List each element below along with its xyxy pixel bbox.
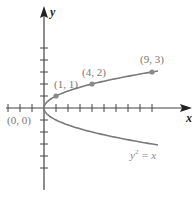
y-axis-label: y [48,5,56,19]
parabola-chart: xy(0, 0)(1, 1)(4, 2)(9, 3)y2 = x [0,0,196,200]
curve-lower-branch [44,108,158,145]
point-label: (9, 3) [140,53,164,66]
axes [6,6,192,190]
point-label: (1, 1) [54,78,78,91]
equation-rest: = x [138,149,156,161]
data-point [89,81,94,86]
data-point [53,93,58,98]
point-label: (4, 2) [82,66,106,79]
point-label: (0, 0) [7,114,31,127]
x-axis-label: x [185,111,192,125]
data-point [149,69,154,74]
equation-label: y2 = x [129,148,156,161]
